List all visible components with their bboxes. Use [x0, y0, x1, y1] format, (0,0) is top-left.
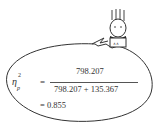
character-icon: ∧∧ — [110, 9, 126, 47]
equals-sign: = — [40, 77, 45, 87]
formula-result: = 0.855 — [40, 100, 66, 110]
fraction-bar — [50, 82, 138, 83]
eta-squared-symbol: η2p — [12, 76, 20, 89]
speech-bubble-tail — [92, 38, 108, 44]
fraction-denominator: 798.207 + 135.367 — [54, 84, 118, 94]
fraction-numerator: 798.207 — [76, 66, 104, 76]
svg-text:∧∧: ∧∧ — [113, 41, 119, 46]
eta-squared-illustration: ∧∧ η2p = 798.207 798.207 + 135.367 = 0.8… — [0, 0, 157, 137]
